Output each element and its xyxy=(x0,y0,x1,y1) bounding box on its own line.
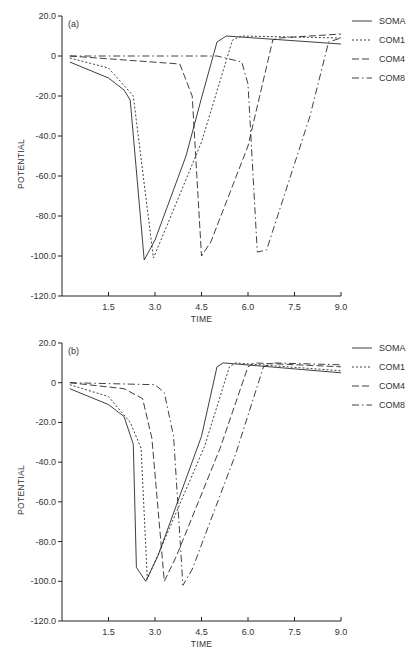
y-tick-label: -120.0 xyxy=(30,616,56,626)
y-axis-title: POTENTIAL xyxy=(16,139,26,189)
y-tick-label: -40.0 xyxy=(35,457,56,467)
legend-label: COM4 xyxy=(379,381,405,391)
x-axis-title: TIME xyxy=(191,314,213,324)
series-com8 xyxy=(70,38,341,252)
series-com4 xyxy=(70,363,341,581)
x-tick-label: 3.0 xyxy=(149,302,162,312)
panel-label: (a) xyxy=(68,19,79,29)
series-com8 xyxy=(70,363,341,585)
y-tick-label: 0 xyxy=(51,378,56,388)
y-tick-label: -80.0 xyxy=(35,211,56,221)
series-soma xyxy=(70,363,341,581)
x-tick-label: 3.0 xyxy=(149,627,162,637)
x-tick-label: 9.0 xyxy=(335,302,348,312)
y-tick-label: -100.0 xyxy=(30,251,56,261)
panel-label: (b) xyxy=(68,346,79,356)
legend-label: SOMA xyxy=(379,343,406,353)
legend-label: COM1 xyxy=(379,35,405,45)
y-axis-title: POTENTIAL xyxy=(16,465,26,515)
x-tick-label: 6.0 xyxy=(242,302,255,312)
y-tick-label: -100.0 xyxy=(30,576,56,586)
legend-label: COM8 xyxy=(379,73,405,83)
x-axis-title: TIME xyxy=(191,639,213,649)
y-tick-label: 20.0 xyxy=(38,338,56,348)
y-tick-label: -20.0 xyxy=(35,91,56,101)
series-com1 xyxy=(70,363,341,579)
x-tick-label: 9.0 xyxy=(335,627,348,637)
series-soma xyxy=(70,36,341,260)
x-tick-label: 1.5 xyxy=(102,302,115,312)
figure: 20.00-20.0-40.0-60.0-80.0-100.0-120.01.5… xyxy=(0,0,417,654)
legend-label: COM8 xyxy=(379,400,405,410)
x-tick-label: 1.5 xyxy=(102,627,115,637)
x-tick-label: 6.0 xyxy=(242,627,255,637)
y-tick-label: -120.0 xyxy=(30,291,56,301)
legend-label: SOMA xyxy=(379,16,406,26)
x-tick-label: 7.5 xyxy=(288,627,301,637)
legend-label: COM4 xyxy=(379,54,405,64)
x-tick-label: 4.5 xyxy=(195,627,208,637)
y-tick-label: 20.0 xyxy=(38,11,56,21)
y-tick-label: -60.0 xyxy=(35,497,56,507)
chart-panel-a: 20.00-20.0-40.0-60.0-80.0-100.0-120.01.5… xyxy=(16,11,406,324)
y-tick-label: -20.0 xyxy=(35,417,56,427)
x-tick-label: 7.5 xyxy=(288,302,301,312)
y-tick-label: -80.0 xyxy=(35,537,56,547)
x-tick-label: 4.5 xyxy=(195,302,208,312)
legend-label: COM1 xyxy=(379,362,405,372)
y-tick-label: -60.0 xyxy=(35,171,56,181)
y-tick-label: -40.0 xyxy=(35,131,56,141)
y-tick-label: 0 xyxy=(51,51,56,61)
chart-panel-b: 20.00-20.0-40.0-60.0-80.0-100.0-120.01.5… xyxy=(16,338,406,649)
